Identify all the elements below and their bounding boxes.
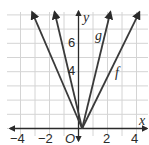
x-tick-label: 4 bbox=[131, 131, 138, 145]
function-label-f: f bbox=[115, 65, 121, 80]
x-axis-label: x bbox=[138, 113, 146, 128]
origin-label: O bbox=[65, 131, 75, 145]
y-axis-label: y bbox=[81, 10, 90, 25]
y-tick-label: 6 bbox=[68, 35, 75, 50]
absolute-value-graph: x y O −4 −2 2 4 4 6 g f bbox=[0, 0, 149, 145]
y-tick-label: 4 bbox=[68, 63, 75, 78]
function-label-g: g bbox=[95, 28, 102, 43]
x-tick-label: 2 bbox=[103, 131, 110, 145]
x-tick-label: −4 bbox=[10, 131, 25, 145]
x-tick-label: −2 bbox=[38, 131, 53, 145]
